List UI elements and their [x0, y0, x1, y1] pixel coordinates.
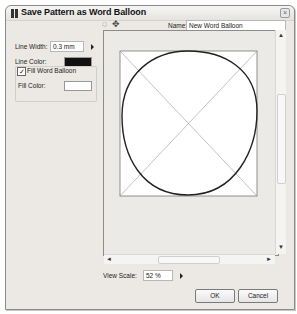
line-width-label: Line Width:: [15, 43, 48, 50]
vertical-scrollbar[interactable]: ▲ ▼: [275, 30, 286, 254]
line-width-input[interactable]: 0.3 mm: [50, 41, 84, 52]
save-pattern-dialog: Save Pattern as Word Balloon × ◌ ✥ Name:…: [5, 5, 295, 310]
fill-color-swatch[interactable]: [64, 81, 92, 91]
name-label: Name:: [168, 22, 187, 29]
scroll-up-arrow-icon[interactable]: ▲: [278, 32, 284, 39]
dialog-title: Save Pattern as Word Balloon: [21, 7, 146, 17]
fill-color-label: Fill Color:: [18, 82, 45, 89]
ok-button[interactable]: OK: [195, 289, 235, 303]
vertical-scroll-thumb[interactable]: [277, 94, 286, 184]
cancel-button[interactable]: Cancel: [238, 289, 278, 303]
lasso-icon[interactable]: ◌: [102, 20, 107, 29]
balloon-preview-graphic: [104, 31, 276, 255]
scroll-down-arrow-icon[interactable]: ▼: [278, 244, 284, 251]
line-width-menu-arrow-icon[interactable]: [91, 44, 94, 50]
scroll-right-arrow-icon[interactable]: ►: [266, 256, 272, 263]
fill-word-balloon-label[interactable]: Fill Word Balloon: [27, 67, 76, 74]
close-button[interactable]: ×: [280, 8, 290, 18]
preview-canvas[interactable]: [103, 30, 279, 256]
horizontal-scroll-thumb[interactable]: [158, 256, 220, 264]
fill-word-balloon-checkbox[interactable]: ✓: [17, 67, 26, 76]
move-icon[interactable]: ✥: [112, 20, 120, 29]
view-scale-label: View Scale:: [103, 272, 137, 279]
scroll-left-arrow-icon[interactable]: ◄: [106, 256, 112, 263]
view-scale-menu-arrow-icon[interactable]: [180, 273, 183, 279]
line-color-label: Line Color:: [15, 58, 46, 65]
horizontal-scrollbar[interactable]: ◄ ►: [104, 254, 275, 264]
view-scale-input[interactable]: 52 %: [143, 270, 173, 281]
app-icon: [11, 9, 14, 18]
title-bar[interactable]: Save Pattern as Word Balloon ×: [6, 6, 294, 21]
